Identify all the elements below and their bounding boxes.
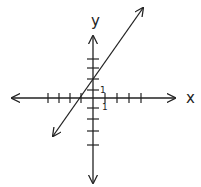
coordinate-plane: y x 1 1 [0,0,201,187]
unit-label-y: 1 [100,85,106,95]
y-axis-label: y [91,12,100,30]
unit-label-x: 1 [102,102,108,112]
x-axis-label: x [186,89,195,107]
